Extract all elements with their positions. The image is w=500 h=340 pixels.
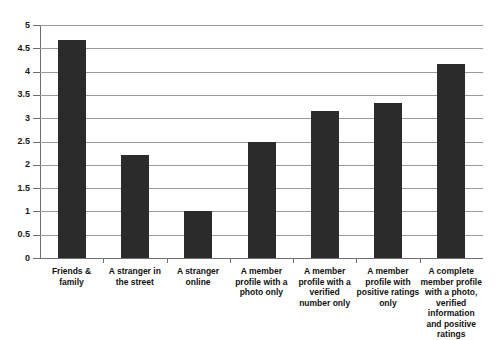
x-axis-tick: [103, 258, 104, 263]
bar: [248, 142, 276, 258]
y-axis-tick-label: 4: [0, 67, 30, 76]
y-axis-tick: [33, 235, 40, 236]
bar: [374, 103, 402, 258]
bar: [184, 211, 212, 258]
x-axis-labels: Friends & familyA stranger in the street…: [40, 266, 483, 340]
y-axis-tick-label: 1: [0, 207, 30, 216]
gridline: [40, 118, 483, 119]
x-axis-category-label: A complete member profile with a photo, …: [420, 266, 483, 340]
y-axis-tick: [33, 25, 40, 26]
y-axis-tick: [33, 118, 40, 119]
x-axis-category-label: Friends & family: [40, 266, 103, 287]
gridline: [40, 258, 483, 259]
x-axis-tick: [293, 258, 294, 263]
y-axis-tick: [33, 95, 40, 96]
gridline: [40, 95, 483, 96]
gridline: [40, 25, 483, 26]
y-axis-tick: [33, 142, 40, 143]
gridline: [40, 72, 483, 73]
x-axis-tick: [420, 258, 421, 263]
y-axis-tick-label: 1.5: [0, 184, 30, 193]
y-axis-tick: [33, 72, 40, 73]
gridline: [40, 48, 483, 49]
y-axis-tick-label: 2: [0, 160, 30, 169]
y-axis-tick: [33, 258, 40, 259]
x-axis-tick: [167, 258, 168, 263]
bar: [58, 40, 86, 258]
y-axis-tick-label: 0: [0, 254, 30, 263]
plot-area: [40, 25, 483, 258]
bar: [437, 64, 465, 258]
y-axis-tick-label: 3.5: [0, 90, 30, 99]
x-axis-tick: [356, 258, 357, 263]
x-axis-category-label: A member profile with a photo only: [230, 266, 293, 298]
y-axis-tick: [33, 211, 40, 212]
y-axis-tick-label: 5: [0, 21, 30, 30]
x-axis-category-label: A stranger in the street: [103, 266, 166, 287]
x-axis-category-label: A stranger online: [167, 266, 230, 287]
x-axis-category-label: A member profile with positive ratings o…: [356, 266, 419, 308]
bar: [121, 155, 149, 258]
bar-chart: 54.543.532.521.510.50 Friends & familyA …: [0, 0, 500, 340]
y-axis-tick-label: 2.5: [0, 137, 30, 146]
bar: [311, 111, 339, 258]
y-axis-tick: [33, 165, 40, 166]
y-axis-tick-label: 4.5: [0, 44, 30, 53]
y-axis-tick: [33, 48, 40, 49]
y-axis-tick: [33, 188, 40, 189]
y-axis-tick-label: 3: [0, 114, 30, 123]
x-axis-tick: [230, 258, 231, 263]
y-axis-tick-label: 0.5: [0, 230, 30, 239]
x-axis-category-label: A member profile with a verified number …: [293, 266, 356, 308]
